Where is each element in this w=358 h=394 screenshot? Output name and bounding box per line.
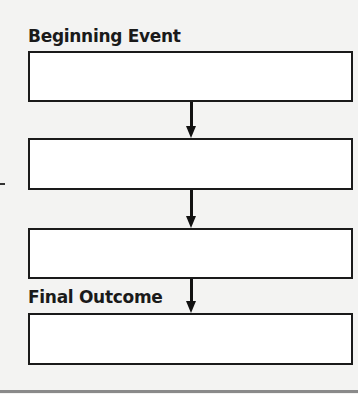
down-arrow-icon bbox=[186, 102, 197, 138]
flow-box-1 bbox=[28, 51, 353, 102]
bottom-rule bbox=[0, 390, 358, 393]
flow-box-2 bbox=[28, 138, 353, 190]
beginning-event-label: Beginning Event bbox=[28, 26, 181, 46]
down-arrow-icon bbox=[186, 190, 197, 228]
margin-dash bbox=[0, 183, 5, 185]
flow-box-4 bbox=[28, 313, 353, 365]
flow-box-3 bbox=[28, 228, 353, 279]
final-outcome-label: Final Outcome bbox=[28, 287, 163, 307]
down-arrow-icon bbox=[186, 279, 197, 313]
